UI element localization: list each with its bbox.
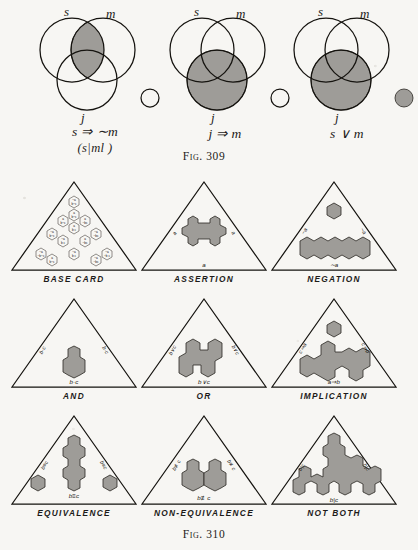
formula-main: s ∨ m bbox=[330, 126, 364, 141]
venn-label-m: m bbox=[106, 6, 116, 22]
shaded-circle-universe-dot bbox=[395, 89, 413, 107]
triangle-cell-equivalence: b≡c b≡c b≡c EQUIVALENCE bbox=[6, 410, 142, 526]
triangle-outline bbox=[142, 416, 266, 504]
cell-caption: ASSERTION bbox=[136, 274, 272, 284]
formula-main: s ⇒ ∼m bbox=[72, 124, 118, 139]
svg-text:b~c: b~c bbox=[49, 234, 55, 238]
venn-diagram-s-implies-not-m: s m j bbox=[28, 6, 164, 131]
shaded-hex-top bbox=[327, 321, 341, 337]
venn-label-s: s bbox=[318, 4, 323, 20]
bottom-label: b·c bbox=[69, 378, 79, 385]
svg-text:a: a bbox=[171, 230, 178, 236]
circle-universe-dot bbox=[141, 89, 159, 107]
svg-text:~bc: ~bc bbox=[93, 260, 99, 264]
svg-text:~b~c: ~b~c bbox=[38, 254, 45, 258]
triangle-cell-base-card: ~ab~c ab~c ab~c a~bc ab c ~ab~c ~a~bc ~a… bbox=[6, 176, 142, 292]
svg-text:~bc: ~bc bbox=[82, 221, 88, 225]
shaded-hex-top bbox=[327, 203, 341, 219]
bottom-label: b∨c bbox=[198, 378, 211, 385]
bottom-label: b|c bbox=[330, 496, 339, 503]
formula-main: j ⇒ m bbox=[208, 126, 241, 141]
shaded-region bbox=[182, 216, 226, 246]
shaded-region bbox=[63, 346, 85, 378]
svg-text:a: a bbox=[230, 230, 237, 236]
venn-label-j: j bbox=[335, 110, 339, 126]
cell-caption: EQUIVALENCE bbox=[6, 508, 142, 518]
venn-label-s: s bbox=[194, 4, 199, 20]
svg-text:c⇒a: c⇒a bbox=[297, 342, 308, 355]
svg-text:b·c: b·c bbox=[38, 345, 47, 355]
shaded-column bbox=[63, 435, 85, 491]
shaded-region bbox=[179, 339, 222, 377]
svg-text:~b c: ~b c bbox=[104, 254, 110, 258]
side-labels: ~a ~a bbox=[300, 227, 368, 236]
figure-309-caption: Fig. 309 bbox=[0, 150, 408, 162]
figure-310: ~ab~c ab~c ab~c a~bc ab c ~ab~c ~a~bc ~a… bbox=[0, 176, 408, 526]
svg-text:b~c: b~c bbox=[49, 260, 55, 264]
cell-caption: NOT BOTH bbox=[266, 508, 402, 518]
svg-text:b~c: b~c bbox=[71, 215, 77, 219]
side-labels: b≢c b≢c bbox=[171, 458, 238, 471]
venn-label-s: s bbox=[64, 4, 69, 20]
formula-s-or-m: s ∨ m bbox=[262, 126, 418, 143]
svg-text:b~c: b~c bbox=[71, 202, 77, 206]
cell-caption: NON-EQUIVALENCE bbox=[136, 508, 272, 518]
svg-text:~bc: ~bc bbox=[93, 234, 99, 238]
venn-diagram-j-implies-m: s m j bbox=[158, 6, 294, 131]
venn-diagram-s-or-m: s m j bbox=[282, 6, 418, 131]
cell-caption: IMPLICATION bbox=[266, 391, 402, 401]
shaded-pair-left bbox=[182, 459, 204, 491]
shaded-region-bottom bbox=[300, 341, 370, 381]
shaded-region-bottom bbox=[300, 237, 370, 259]
svg-text:b·c: b·c bbox=[101, 345, 110, 355]
shaded-pair-right bbox=[204, 459, 226, 491]
figure-309: s m j s m j s bbox=[0, 0, 408, 172]
shaded-hex-left bbox=[31, 475, 45, 491]
triangle-cell-negation: ~a ~a ∼a NEGATION bbox=[266, 176, 402, 292]
svg-text:b c: b c bbox=[72, 254, 77, 258]
svg-text:b∨c: b∨c bbox=[167, 344, 177, 356]
svg-text:b c: b c bbox=[72, 228, 77, 232]
cell-caption: BASE CARD bbox=[6, 274, 142, 284]
shaded-hex-right bbox=[103, 475, 117, 491]
triangle-cell-assertion: a a a ASSERTION bbox=[136, 176, 272, 292]
bottom-label: a bbox=[202, 261, 206, 268]
triangle-cell-implication: c⇒a c⇒b a⇒b IMPLICATION bbox=[266, 293, 402, 409]
triangle-cell-or: b∨c b∨c b∨c OR bbox=[136, 293, 272, 409]
cell-caption: AND bbox=[6, 391, 142, 401]
triangle-cell-and: b·c b·c b·c AND bbox=[6, 293, 142, 409]
venn-label-j: j bbox=[211, 110, 215, 126]
bottom-label: b≢c bbox=[197, 494, 211, 501]
bottom-label: a⇒b bbox=[328, 378, 341, 385]
svg-text:b~c: b~c bbox=[60, 221, 66, 225]
cell-caption: NEGATION bbox=[266, 274, 402, 284]
bottom-label: b≡c bbox=[69, 492, 80, 499]
triangle-cell-not-both: b|c b|c b|c NOT BOTH bbox=[266, 410, 402, 526]
cell-caption: OR bbox=[136, 391, 272, 401]
svg-text:b≡c: b≡c bbox=[99, 459, 109, 470]
svg-text:~bc: ~bc bbox=[82, 241, 88, 245]
bottom-label: ∼a bbox=[330, 261, 339, 268]
triangle-cell-non-equivalence: b≢c b≢c b≢c NON-EQUIVALENCE bbox=[136, 410, 272, 526]
figure-310-caption: Fig. 310 bbox=[0, 528, 408, 540]
svg-text:b≡c: b≡c bbox=[39, 459, 49, 470]
venn-label-m: m bbox=[360, 6, 370, 22]
svg-text:b∨c: b∨c bbox=[231, 344, 241, 356]
svg-text:b c: b c bbox=[61, 241, 66, 245]
venn-label-m: m bbox=[236, 6, 246, 22]
